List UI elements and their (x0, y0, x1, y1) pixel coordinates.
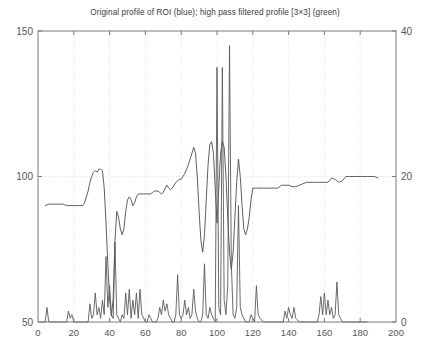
figure-canvas: Original profile of ROI (blue); high pas… (0, 0, 430, 348)
x-tick-label: 100 (209, 327, 225, 338)
x-tick-label: 20 (69, 327, 80, 338)
x-tick-label: 140 (281, 327, 297, 338)
data-series-layer (42, 46, 379, 322)
y-right-tick-label: 0 (401, 317, 407, 328)
x-tick-label: 200 (388, 327, 404, 338)
x-tick-label: 80 (176, 327, 187, 338)
y-right-tick-label: 20 (401, 171, 413, 182)
series-highpass-filtered (42, 46, 368, 322)
x-tick-label: 0 (35, 327, 40, 338)
series-original-profile (45, 142, 378, 317)
y-right-tick-label: 40 (401, 26, 413, 37)
x-tick-label: 160 (316, 327, 332, 338)
x-tick-label: 60 (140, 327, 151, 338)
x-tick-label: 180 (352, 327, 368, 338)
y-left-tick-label: 150 (16, 26, 33, 37)
y-left-tick-label: 100 (16, 171, 33, 182)
x-tick-label: 120 (245, 327, 261, 338)
y-left-tick-label: 50 (22, 317, 34, 328)
chart-plot: 0204060801001201401601802005010015002040 (0, 0, 430, 348)
x-tick-label: 40 (104, 327, 115, 338)
